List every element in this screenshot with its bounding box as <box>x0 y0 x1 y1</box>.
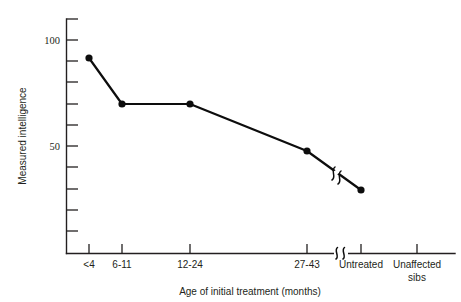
y-tick-label-100: 100 <box>44 35 60 46</box>
x-tick-label-4: Untreated <box>339 259 383 270</box>
data-point-0 <box>85 54 92 61</box>
x-tick-label-0: <4 <box>83 259 95 270</box>
x-tick-label-5-line2: sibs <box>408 272 426 283</box>
x-tick-label-3: 27-43 <box>294 259 320 270</box>
data-point-4 <box>357 186 364 193</box>
y-tick-label-50: 50 <box>50 141 61 152</box>
data-point-3 <box>303 147 310 154</box>
x-tick-label-2: 12-24 <box>177 259 203 270</box>
y-axis-title: Measured intelligence <box>17 87 28 185</box>
data-point-2 <box>186 100 193 107</box>
x-axis-title: Age of initial treatment (months) <box>179 286 321 297</box>
line-chart-svg: 100 50 Measured intelligence <4 6-11 12-… <box>0 0 461 302</box>
data-point-1 <box>118 100 125 107</box>
x-tick-label-5-line1: Unaffected <box>393 259 441 270</box>
x-tick-label-1: 6-11 <box>112 259 132 270</box>
chart-figure: 100 50 Measured intelligence <4 6-11 12-… <box>0 0 461 302</box>
chart-background <box>0 0 461 302</box>
